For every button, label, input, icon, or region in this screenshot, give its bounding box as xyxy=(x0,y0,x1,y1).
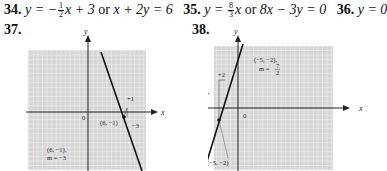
answer-34-eq2: x + 2y = 6 xyxy=(113,2,172,17)
fraction: 12 xyxy=(58,2,64,19)
svg-text:+2: +2 xyxy=(218,71,225,78)
svg-text:(−5, −2),: (−5, −2), xyxy=(254,56,277,64)
answer-35-eq2: 8x − 3y = 0 xyxy=(260,2,326,17)
svg-text:y: y xyxy=(83,28,88,36)
svg-text:−3: −3 xyxy=(132,122,139,129)
answer-36-eq: y = 0 xyxy=(358,2,387,17)
svg-text:+7: +7 xyxy=(208,91,210,98)
graph-37: x y 0 (6, −1) +1 −3 (6, −1), m = −3 xyxy=(20,28,170,171)
svg-text:(6, −1),: (6, −1), xyxy=(47,146,67,154)
y-arrow-icon xyxy=(85,35,91,42)
graph-37-number: 37. xyxy=(4,22,22,38)
svg-text:(−5, −2): (−5, −2) xyxy=(208,159,228,167)
svg-text:2: 2 xyxy=(276,69,279,76)
svg-text:x: x xyxy=(160,108,165,117)
graph-38: x y 0 (−5, −2) +7 +2 (−5, −2), m = 7 2 xyxy=(208,28,371,171)
or-text: or xyxy=(245,2,257,17)
x-arrow-icon xyxy=(151,109,158,115)
answer-number-36: 36. xyxy=(337,2,355,17)
svg-text:(6, −1): (6, −1) xyxy=(100,119,118,127)
answer-35-eq1: y = 83x xyxy=(204,2,241,17)
svg-text:y: y xyxy=(233,28,238,36)
answer-number-35: 35. xyxy=(183,2,201,17)
y-arrow-icon xyxy=(235,35,241,42)
svg-text:0: 0 xyxy=(243,112,246,119)
answer-number-34: 34. xyxy=(4,2,22,17)
answers-line: 34. y = −12x + 3 or x + 2y = 6 35. y = 8… xyxy=(4,2,387,19)
svg-text:x: x xyxy=(358,104,363,113)
answer-34-eq1: y = −12x + 3 xyxy=(25,2,95,17)
svg-text:+1: +1 xyxy=(127,95,134,102)
svg-text:m = −3: m = −3 xyxy=(47,154,66,161)
svg-text:0: 0 xyxy=(82,114,85,121)
x-arrow-icon xyxy=(343,105,350,111)
grid xyxy=(28,50,146,170)
svg-text:m =: m = xyxy=(259,65,270,72)
graph-38-number: 38. xyxy=(192,22,210,38)
or-text: or xyxy=(98,2,110,17)
